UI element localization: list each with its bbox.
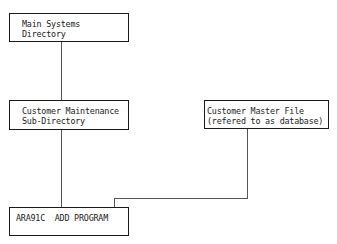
node-ara91c-add-program: ARA91C ADD PROGRAM bbox=[9, 207, 129, 236]
node-label-line: Sub-Directory bbox=[22, 116, 128, 126]
node-label-line: ARA91C ADD PROGRAM bbox=[16, 213, 128, 223]
node-label-line: Directory bbox=[22, 29, 128, 39]
node-customer-maintenance-sub-directory: Customer Maintenance Sub-Directory bbox=[9, 100, 129, 130]
node-label-line: Customer Master File bbox=[207, 106, 328, 116]
connector-main-to-sub bbox=[61, 42, 62, 100]
connector-master-to-program bbox=[114, 198, 115, 207]
node-label-line: Main Systems bbox=[22, 19, 128, 29]
node-label-line: Customer Maintenance bbox=[22, 106, 128, 116]
connector-master-vertical bbox=[247, 129, 248, 198]
connector-master-horizontal bbox=[114, 198, 248, 199]
node-customer-master-file: Customer Master File (refered to as data… bbox=[204, 100, 329, 129]
connector-sub-to-program bbox=[61, 130, 62, 207]
node-main-systems-directory: Main Systems Directory bbox=[9, 13, 129, 42]
node-label-line: (refered to as database) bbox=[207, 116, 328, 126]
